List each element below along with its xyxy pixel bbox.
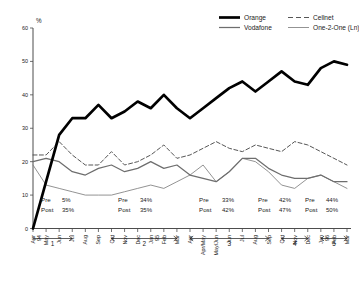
y-tick-label: 40 — [22, 92, 28, 98]
x-tick-label: Jan95 — [148, 235, 160, 244]
period-number: 1 — [51, 240, 55, 247]
x-tick-label-part: May — [43, 235, 49, 245]
series-line-cellnet — [33, 142, 347, 165]
post-value: 35% — [140, 207, 153, 213]
y-tick-label: 20 — [22, 159, 28, 165]
period-number: 2 — [142, 240, 146, 247]
x-tick-label-part: Aug — [252, 235, 258, 245]
y-axis-label: % — [36, 17, 42, 24]
y-axis: 0102030405060% — [22, 17, 42, 232]
post-label: Post — [118, 206, 131, 213]
x-tick-label-part: 96 — [324, 235, 330, 241]
x-tick-label: May/Jun — [213, 235, 219, 255]
series-line-one-2-one-ln — [33, 158, 347, 195]
pre-label: Pre — [199, 196, 209, 203]
x-tick-label: Jun — [56, 235, 62, 244]
pre-label: Pre — [258, 196, 268, 203]
period-number: 4 — [293, 240, 297, 247]
x-tick-label-part: Apr/May — [200, 235, 206, 255]
legend-item-vodafone[interactable]: Vodafone — [219, 24, 272, 31]
x-axis: Apr94MayJunJulAugSepOctNovDecJan95FebMar… — [30, 229, 351, 256]
x-tick-label-part: Apr — [30, 235, 36, 244]
x-tick-label-part: Jan — [318, 235, 324, 244]
x-tick-label-part: Jun — [56, 235, 62, 244]
x-tick-label-part: 95 — [154, 235, 160, 241]
y-tick-label: 0 — [25, 226, 28, 232]
y-tick-label: 30 — [22, 125, 28, 131]
period-number: 3 — [227, 240, 231, 247]
x-tick-label: Apr/May — [200, 235, 206, 255]
line-chart: 0102030405060%Apr94MayJunJulAugSepOctNov… — [0, 0, 359, 294]
post-label: Post — [305, 206, 318, 213]
x-tick-label-part: May/Jun — [213, 235, 219, 255]
legend-label: One-2-One (Ln) — [313, 24, 359, 32]
pre-label: Pre — [41, 196, 51, 203]
post-value: 50% — [326, 207, 339, 213]
x-tick-label: Feb — [161, 235, 167, 244]
x-tick-label-part: Mar — [174, 235, 180, 244]
x-tick-label-part: Dec — [135, 235, 141, 245]
y-tick-label: 60 — [22, 25, 28, 31]
pre-value: 34% — [140, 197, 153, 203]
x-tick-label-part: Sep — [95, 235, 101, 245]
pre-value: 5% — [62, 197, 71, 203]
chart-container: 0102030405060%Apr94MayJunJulAugSepOctNov… — [0, 0, 359, 294]
post-value: 35% — [62, 207, 75, 213]
pre-label: Pre — [305, 196, 315, 203]
x-tick-label-part: Nov — [122, 235, 128, 245]
x-tick-label-part: Oct — [109, 235, 115, 244]
legend-item-one-2-one-ln[interactable]: One-2-One (Ln) — [288, 24, 359, 32]
series-line-orange — [33, 61, 347, 228]
period-number: 5 — [332, 240, 336, 247]
legend-label: Vodafone — [244, 24, 272, 31]
pre-value: 33% — [222, 197, 235, 203]
pre-value: 44% — [326, 197, 339, 203]
x-tick-label-part: Mar — [344, 235, 350, 244]
x-tick-label: Apr94 — [30, 235, 42, 244]
x-tick-label: Aug — [252, 235, 258, 245]
x-tick-label: Nov — [122, 235, 128, 245]
plot-area — [33, 61, 347, 228]
x-tick-label: Sep — [95, 235, 101, 245]
legend-item-orange[interactable]: Orange — [219, 14, 266, 22]
y-tick-label: 50 — [22, 58, 28, 64]
post-value: 42% — [222, 207, 235, 213]
pre-value: 42% — [279, 197, 292, 203]
legend-label: Cellnet — [313, 14, 334, 21]
x-tick-label: Oct — [279, 235, 285, 244]
y-tick-label: 10 — [22, 192, 28, 198]
x-tick-label: Mar — [344, 235, 350, 244]
x-tick-label: Mar — [174, 235, 180, 244]
x-tick-label: Apr — [187, 235, 193, 244]
post-value: 47% — [279, 207, 292, 213]
x-tick-label: May — [43, 235, 49, 245]
x-tick-label-part: Jan — [148, 235, 154, 244]
x-tick-label-part: Feb — [161, 235, 167, 244]
pre-label: Pre — [118, 196, 128, 203]
series-line-vodafone — [33, 158, 347, 181]
x-tick-label: Aug — [82, 235, 88, 245]
legend-label: Orange — [244, 14, 266, 22]
legend: OrangeVodafoneCellnetOne-2-One (Ln) — [219, 14, 359, 32]
post-label: Post — [258, 206, 271, 213]
x-tick-label-part: 94 — [36, 235, 42, 241]
legend-item-cellnet[interactable]: Cellnet — [288, 14, 334, 21]
x-tick-label-part: Apr — [187, 235, 193, 244]
post-label: Post — [41, 206, 54, 213]
x-tick-label-part: Aug — [82, 235, 88, 245]
x-tick-label: Oct — [109, 235, 115, 244]
x-tick-label-part: Oct — [279, 235, 285, 244]
post-label: Post — [199, 206, 212, 213]
x-tick-label: Dec — [135, 235, 141, 245]
